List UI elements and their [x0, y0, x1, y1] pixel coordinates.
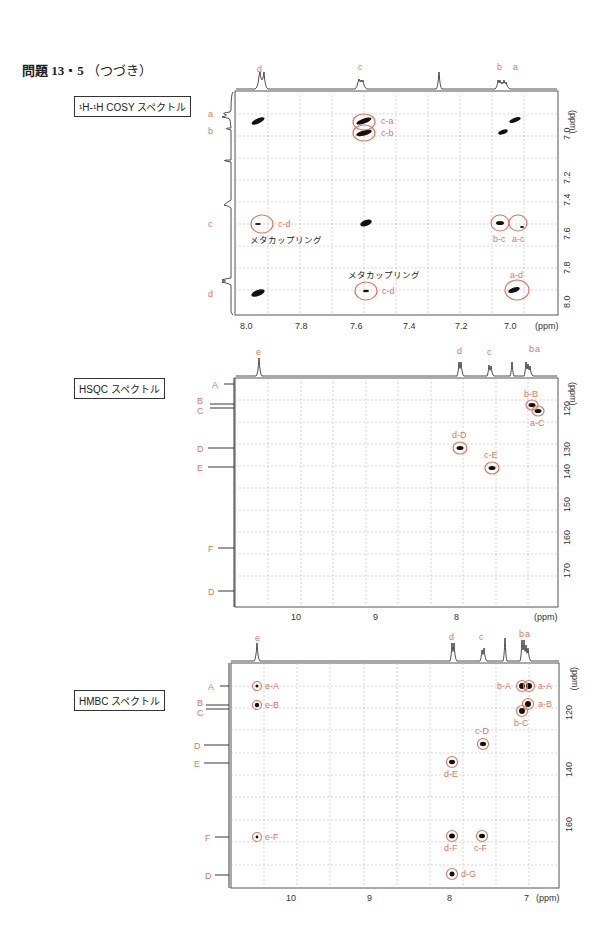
- cosy-panel: a b c d d c b a: [208, 62, 578, 331]
- hmbc-carbon-F: F: [205, 833, 211, 843]
- hmbc-frame: [231, 663, 559, 888]
- cosy-annot-c-b: c-b: [381, 128, 394, 138]
- hsqc-carbon-A: A: [212, 380, 218, 390]
- cosy-xtick: 7.8: [295, 321, 308, 331]
- hmbc-xtick: 8: [447, 893, 452, 903]
- hsqc-panel: A B C D E F D e d c b a b-B a-C d-D c-E …: [197, 344, 578, 622]
- hsqc-carbon-D: D: [197, 444, 204, 454]
- hmbc-xtick: 9: [367, 893, 372, 903]
- cosy-top-a: a: [513, 62, 518, 72]
- hsqc-xtick: 10: [291, 612, 301, 622]
- cosy-yunit: (ppm): [568, 110, 578, 134]
- cosy-xtick: 7.2: [455, 321, 468, 331]
- cosy-ytick: 7.6: [562, 227, 572, 240]
- hmbc-ytick: 160: [564, 817, 574, 832]
- hmbc-carbon-E: E: [194, 759, 200, 769]
- hsqc-carbon-D2: D: [208, 587, 215, 597]
- hsqc-carbon-F: F: [208, 544, 214, 554]
- hmbc-annot-b-C: b-C: [514, 718, 529, 728]
- hsqc-xtick: 9: [373, 612, 378, 622]
- hmbc-top-e: e: [255, 633, 260, 643]
- hmbc-top-b: b: [519, 629, 524, 639]
- cosy-ytick: 7.2: [562, 171, 572, 184]
- cosy-xunit: (ppm): [535, 321, 559, 331]
- cosy-ytick: 7.8: [562, 261, 572, 274]
- hmbc-annot-b-A: b-A: [497, 681, 511, 691]
- hsqc-annot-d-D: d-D: [452, 430, 467, 440]
- cosy-top-b: b: [497, 62, 502, 72]
- hmbc-annot-d-G: d-G: [461, 869, 476, 879]
- hmbc-carbon-A: A: [208, 682, 214, 692]
- spectra-figure: a b c d d c b a: [0, 0, 603, 944]
- cosy-ytick: 8.0: [562, 295, 572, 308]
- cosy-top-spectrum: [236, 72, 557, 89]
- hmbc-top-d: d: [449, 632, 454, 642]
- cosy-xtick: 7.4: [403, 321, 416, 331]
- cosy-annot-a-c: a-c: [512, 234, 525, 244]
- hsqc-frame: [235, 378, 558, 607]
- hmbc-top-c: c: [479, 632, 484, 642]
- cosy-side-b: b: [208, 126, 213, 136]
- cosy-annot-c-a: c-a: [381, 116, 394, 126]
- hsqc-top-b: b: [529, 344, 534, 354]
- hmbc-carbon-D: D: [194, 741, 201, 751]
- hsqc-carbon-C: C: [197, 406, 204, 416]
- hmbc-annot-d-E: d-E: [444, 769, 458, 779]
- hmbc-annot-e-A: e-A: [265, 681, 279, 691]
- hmbc-carbon-B: B: [197, 698, 203, 708]
- hmbc-panel: A B C D E F D e d c b a: [194, 629, 580, 903]
- cosy-top-d: d: [257, 64, 262, 74]
- hsqc-carbon-B: B: [197, 396, 203, 406]
- hsqc-annot-c-E: c-E: [484, 450, 498, 460]
- hsqc-yunit: (ppm): [568, 382, 578, 406]
- cosy-note-meta-1: メタカップリング: [250, 235, 322, 245]
- hsqc-ytick: 130: [562, 442, 572, 457]
- hmbc-yunit: (ppm): [570, 667, 580, 691]
- hsqc-top-spectrum: [236, 358, 557, 376]
- cosy-side-a: a: [208, 109, 213, 119]
- hmbc-xtick: 7: [524, 893, 529, 903]
- cosy-xtick: 7.0: [504, 321, 517, 331]
- cosy-ytick: 7.4: [562, 193, 572, 206]
- hmbc-annot-a-B: a-B: [538, 699, 552, 709]
- hsqc-ytick: 150: [562, 497, 572, 512]
- hsqc-top-e: e: [256, 347, 261, 357]
- hmbc-top-spectrum: [231, 638, 559, 661]
- hmbc-annot-d-F: d-F: [444, 843, 458, 853]
- hsqc-annot-a-C: a-C: [530, 418, 545, 428]
- hsqc-top-a: a: [535, 344, 540, 354]
- hsqc-ytick: 170: [562, 563, 572, 578]
- hmbc-annot-c-D: c-D: [475, 726, 489, 736]
- hsqc-top-c: c: [487, 347, 492, 357]
- cosy-frame: [235, 91, 558, 315]
- hmbc-ytick: 140: [564, 762, 574, 777]
- hmbc-carbon-C: C: [197, 708, 204, 718]
- hmbc-carbon-D2: D: [205, 871, 212, 881]
- hsqc-xunit: (ppm): [534, 612, 558, 622]
- cosy-side-spectrum: [222, 92, 233, 315]
- hsqc-annot-b-B: b-B: [524, 389, 538, 399]
- cosy-side-d: d: [208, 289, 213, 299]
- cosy-note-meta-2: メタカップリング: [348, 270, 420, 280]
- cosy-annot-c-d: c-d: [382, 286, 395, 296]
- cosy-top-c: c: [358, 62, 363, 72]
- hmbc-annot-a-A: a-A: [538, 681, 552, 691]
- cosy-xtick: 8.0: [240, 321, 253, 331]
- hmbc-ytick: 120: [564, 705, 574, 720]
- hmbc-xtick: 10: [286, 893, 296, 903]
- hsqc-ytick: 160: [562, 530, 572, 545]
- hsqc-xtick: 8: [454, 612, 459, 622]
- cosy-xtick: 7.6: [350, 321, 363, 331]
- hsqc-top-d: d: [457, 346, 462, 356]
- hmbc-top-a: a: [525, 629, 530, 639]
- hmbc-annot-e-F: e-F: [265, 832, 279, 842]
- hmbc-annot-e-B: e-B: [265, 700, 279, 710]
- hmbc-xunit: (ppm): [536, 893, 560, 903]
- cosy-side-c: c: [208, 219, 213, 229]
- cosy-annot-c-d-meta: c-d: [278, 219, 291, 229]
- cosy-annot-b-c: b-c: [493, 234, 506, 244]
- cosy-annot-a-d: a-d: [510, 270, 523, 280]
- hsqc-ytick: 140: [562, 464, 572, 479]
- hsqc-carbon-E: E: [197, 463, 203, 473]
- hmbc-annot-c-F: c-F: [474, 843, 487, 853]
